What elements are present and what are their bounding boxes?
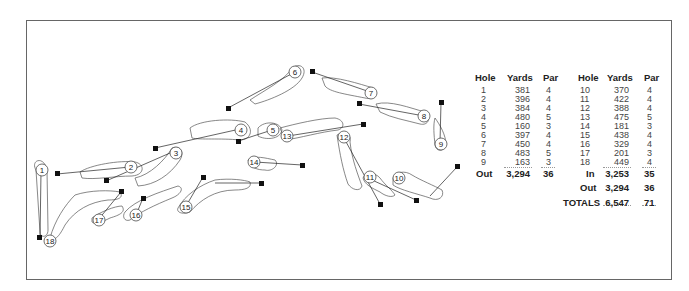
scorecard-table: Hole Yards Par Hole Yards Par 1 2 3 4 5 … bbox=[0, 0, 689, 291]
front-nine-hole-column: 1 2 3 4 5 6 7 8 9 bbox=[481, 86, 491, 167]
in-label: In bbox=[586, 170, 594, 179]
header-yards-back: Yards bbox=[607, 74, 633, 83]
header-yards-front: Yards bbox=[507, 74, 533, 83]
back-nine-hole-column: 10 11 12 13 14 15 16 17 18 bbox=[580, 86, 594, 167]
in-yards: 3,253 bbox=[599, 170, 629, 179]
out-label: Out bbox=[476, 170, 492, 179]
header-par-back: Par bbox=[644, 74, 659, 83]
back-nine-par-column: 4 4 4 5 3 4 4 3 4 bbox=[647, 86, 657, 167]
header-hole-back: Hole bbox=[578, 74, 599, 83]
header-hole-front: Hole bbox=[475, 74, 496, 83]
out-par-summary: 36 bbox=[644, 184, 655, 193]
front-nine-par-column: 4 4 4 5 3 4 4 5 3 bbox=[546, 86, 556, 167]
in-par: 35 bbox=[644, 170, 655, 179]
back-nine-yards-column: 370 422 388 475 181 438 329 201 449 bbox=[609, 86, 629, 167]
header-par-front: Par bbox=[543, 74, 558, 83]
out-yards-summary: 3,294 bbox=[599, 184, 629, 193]
front-nine-yards-column: 381 396 384 480 160 397 450 483 163 bbox=[510, 86, 530, 167]
totals-par: 71 bbox=[644, 199, 655, 208]
out-par: 36 bbox=[543, 170, 554, 179]
totals-yards: 6,547 bbox=[599, 199, 629, 208]
out-yards: 3,294 bbox=[500, 170, 530, 179]
totals-label: TOTALS bbox=[563, 199, 600, 208]
out-label-summary: Out bbox=[580, 184, 596, 193]
